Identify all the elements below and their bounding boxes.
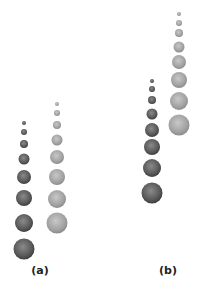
sphere-b-light-0	[177, 12, 181, 16]
sphere-b-dark-3	[147, 109, 158, 120]
sphere-b-dark-1	[149, 86, 155, 92]
sphere-b-dark-2	[148, 96, 156, 104]
sphere-a-dark-6	[15, 214, 33, 232]
panel-b-label: (b)	[159, 264, 177, 277]
sphere-a-light-7	[47, 213, 68, 234]
sphere-a-light-5	[49, 169, 65, 185]
sphere-a-dark-2	[20, 140, 28, 148]
sphere-a-dark-7	[14, 239, 35, 260]
sphere-b-dark-0	[150, 79, 154, 83]
sphere-b-light-2	[175, 29, 183, 37]
sphere-a-light-2	[53, 121, 61, 129]
sphere-b-light-7	[169, 115, 190, 136]
sphere-b-dark-7	[142, 183, 163, 204]
sphere-a-dark-1	[21, 129, 27, 135]
panel-a-label: (a)	[31, 264, 48, 277]
sphere-a-light-0	[55, 102, 59, 106]
sphere-b-light-4	[172, 55, 186, 69]
sphere-a-light-6	[48, 190, 66, 208]
sphere-a-dark-5	[16, 190, 32, 206]
sphere-a-dark-3	[19, 154, 30, 165]
sphere-b-light-1	[176, 20, 182, 26]
sphere-b-dark-6	[143, 159, 161, 177]
sphere-a-dark-4	[17, 170, 31, 184]
sphere-diagram	[0, 0, 200, 295]
sphere-a-light-4	[50, 150, 64, 164]
sphere-b-dark-4	[145, 123, 159, 137]
sphere-b-light-5	[171, 72, 187, 88]
sphere-b-dark-5	[144, 139, 160, 155]
sphere-b-light-3	[174, 42, 185, 53]
sphere-a-dark-0	[22, 121, 26, 125]
sphere-a-light-3	[52, 135, 63, 146]
sphere-a-light-1	[54, 110, 60, 116]
sphere-b-light-6	[170, 92, 188, 110]
